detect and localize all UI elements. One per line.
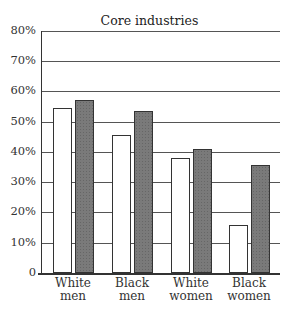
x-category-label-line: women xyxy=(161,290,221,303)
bar-shaded xyxy=(75,100,94,273)
y-tick-label: 20% xyxy=(0,204,36,218)
gridline xyxy=(41,31,280,32)
x-category-label-line: men xyxy=(43,290,103,303)
chart-title: Core industries xyxy=(0,13,299,28)
bar-open xyxy=(53,108,72,273)
y-tick-label: 10% xyxy=(0,235,36,249)
bar-chart: Core industries 010%20%30%40%50%60%70%80… xyxy=(0,0,299,315)
bar-open xyxy=(171,158,190,273)
gridline xyxy=(41,91,280,92)
y-tick-label: 60% xyxy=(0,83,36,97)
y-tick-label: 30% xyxy=(0,174,36,188)
bar-shaded xyxy=(251,165,270,273)
x-category-label: Whitemen xyxy=(43,277,103,303)
y-tick-label: 70% xyxy=(0,53,36,67)
bar-shaded xyxy=(134,111,153,273)
x-category-label: Blackwomen xyxy=(219,277,279,303)
y-tick-label: 80% xyxy=(0,23,36,37)
x-axis xyxy=(38,273,280,275)
y-tick-label: 50% xyxy=(0,114,36,128)
gridline xyxy=(41,61,280,62)
y-tick-label: 0 xyxy=(0,265,36,279)
bar-shaded xyxy=(193,149,212,273)
bar-open xyxy=(229,225,248,273)
x-category-label-line: women xyxy=(219,290,279,303)
x-category-label: Blackmen xyxy=(102,277,162,303)
bar-open xyxy=(112,135,131,273)
y-axis xyxy=(41,31,42,273)
x-category-label: Whitewomen xyxy=(161,277,221,303)
x-category-label-line: men xyxy=(102,290,162,303)
y-tick-label: 40% xyxy=(0,144,36,158)
